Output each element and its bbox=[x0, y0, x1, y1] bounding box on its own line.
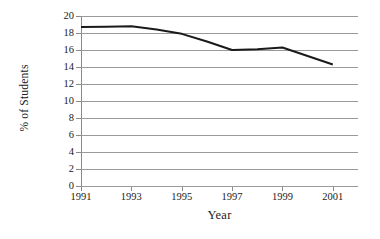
y-tick-mark bbox=[76, 135, 81, 136]
x-tick-label: 1997 bbox=[209, 191, 255, 203]
y-tick-mark bbox=[76, 101, 81, 102]
gridline bbox=[81, 33, 358, 34]
y-tick-mark bbox=[76, 50, 81, 51]
y-tick-mark bbox=[76, 169, 81, 170]
y-tick-mark bbox=[76, 33, 81, 34]
line-chart: % of Students 02468101214161820 Year 199… bbox=[0, 0, 380, 239]
y-tick-label: 14 bbox=[48, 62, 74, 72]
y-axis-tick-labels: 02468101214161820 bbox=[46, 0, 74, 239]
y-tick-label: 4 bbox=[48, 147, 74, 157]
gridline bbox=[81, 152, 358, 153]
y-tick-mark bbox=[76, 84, 81, 85]
y-tick-label: 20 bbox=[48, 11, 74, 21]
y-tick-mark bbox=[76, 152, 81, 153]
gridline bbox=[81, 186, 358, 187]
gridline bbox=[81, 84, 358, 85]
x-tick-label: 1999 bbox=[259, 191, 305, 203]
y-tick-label: 16 bbox=[48, 45, 74, 55]
gridline bbox=[81, 50, 358, 51]
x-tick-label: 1991 bbox=[58, 191, 104, 203]
gridline bbox=[81, 118, 358, 119]
gridline bbox=[81, 16, 358, 17]
y-tick-label: 6 bbox=[48, 130, 74, 140]
y-tick-label: 0 bbox=[48, 181, 74, 191]
y-tick-mark bbox=[76, 16, 81, 17]
gridline bbox=[81, 67, 358, 68]
gridline bbox=[81, 135, 358, 136]
y-tick-label: 18 bbox=[48, 28, 74, 38]
y-tick-label: 8 bbox=[48, 113, 74, 123]
plot-area bbox=[81, 16, 358, 186]
x-tick-label: 2001 bbox=[310, 191, 356, 203]
y-tick-mark bbox=[76, 118, 81, 119]
y-tick-label: 2 bbox=[48, 164, 74, 174]
x-tick-label: 1993 bbox=[108, 191, 154, 203]
x-tick-label: 1995 bbox=[159, 191, 205, 203]
gridline bbox=[81, 101, 358, 102]
y-axis-title: % of Students bbox=[18, 38, 30, 158]
y-tick-mark bbox=[76, 67, 81, 68]
y-tick-label: 10 bbox=[48, 96, 74, 106]
gridline bbox=[81, 169, 358, 170]
y-tick-label: 12 bbox=[48, 79, 74, 89]
x-axis-title: Year bbox=[81, 208, 358, 223]
